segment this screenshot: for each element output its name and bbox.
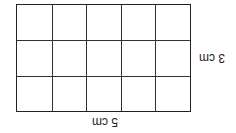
grid-cell <box>121 5 156 40</box>
grid-cell <box>121 40 156 75</box>
grid-cell <box>86 40 121 75</box>
grid-cell <box>121 76 156 111</box>
height-label: 3 cm <box>199 51 225 65</box>
grid-cell <box>86 76 121 111</box>
grid-cell <box>86 5 121 40</box>
grid-cell <box>155 5 190 40</box>
grid-cell <box>52 40 87 75</box>
grid-cell <box>52 5 87 40</box>
grid-cell <box>17 76 52 111</box>
grid-cell <box>155 76 190 111</box>
grid-cell <box>17 5 52 40</box>
grid-cell <box>17 40 52 75</box>
rotated-diagram: 5 cm 3 cm <box>0 0 236 133</box>
grid-cell <box>155 40 190 75</box>
unit-square-grid <box>16 4 191 112</box>
grid-cell <box>52 76 87 111</box>
width-label: 5 cm <box>92 115 118 129</box>
